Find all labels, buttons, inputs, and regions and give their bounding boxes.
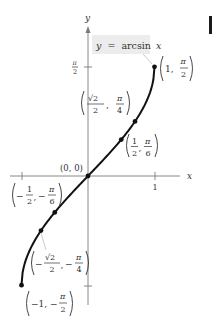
- point-label-neg1-neg-pi-half: −1, − π 2: [27, 291, 73, 316]
- eq-x: x: [156, 40, 162, 51]
- paren-right: [70, 291, 73, 316]
- point-label-neg-sqrt2-neg-pi-quarter: − √2 2 , − π 4: [32, 251, 89, 275]
- p6-den: 2: [61, 305, 66, 314]
- p5-num: π: [75, 253, 82, 262]
- data-point-marker: [19, 283, 24, 288]
- p2-xnum: √2: [88, 94, 98, 103]
- p3-xden: 2: [132, 149, 137, 158]
- point-label-half-pi-sixth: 1 2 , π 6: [127, 134, 158, 158]
- p2-xden: 2: [93, 106, 98, 115]
- p3-comma: ,: [139, 143, 142, 153]
- data-point-marker: [152, 64, 157, 69]
- point-label-neg-half-neg-pi-sixth: − 1 2 , − π 6: [13, 183, 62, 207]
- paren-left: [161, 56, 164, 81]
- eq-y: y: [95, 40, 102, 51]
- p2-den: 4: [117, 106, 122, 115]
- p6-x: −1,: [31, 299, 47, 309]
- page-edge-marker: [209, 16, 212, 34]
- p3-den: 6: [146, 149, 151, 158]
- tick-pi-num: π: [72, 59, 78, 67]
- paren-right: [155, 134, 158, 157]
- p1-x: 1,: [165, 64, 174, 74]
- data-point-marker: [119, 137, 124, 142]
- point-label-1-pi-half: 1, π 2: [161, 56, 193, 81]
- paren-left: [82, 91, 85, 115]
- eq-fn: arcsin: [121, 40, 151, 51]
- p5-comma: ,: [61, 260, 64, 270]
- y-tick-label-pi-half: π 2: [72, 59, 79, 76]
- p4-xden: 2: [27, 197, 32, 206]
- p5-minus-x: −: [35, 259, 43, 269]
- point-label-sqrt2-pi-quarter: √2 2 , π 4: [82, 91, 130, 115]
- p2-comma: ,: [106, 100, 109, 110]
- y-axis-arrow-icon: [86, 26, 91, 33]
- p4-num: π: [48, 185, 55, 194]
- x-tick-label-1: 1: [153, 183, 158, 192]
- p4-xnum: 1: [27, 185, 32, 194]
- p1-num: π: [180, 57, 187, 66]
- origin-label: (0, 0): [60, 163, 83, 173]
- p3-xnum: 1: [132, 137, 137, 146]
- eq-equals: =: [107, 40, 115, 51]
- p3-num: π: [144, 137, 151, 146]
- equation-leader-line: [143, 54, 152, 64]
- paren-left: [27, 291, 30, 316]
- data-point-marker: [133, 119, 138, 124]
- equation-label: y = arcsin x: [92, 35, 162, 64]
- y-axis-label: y: [84, 13, 91, 23]
- tick-pi-den: 2: [73, 68, 77, 76]
- paren-left: [13, 183, 16, 207]
- neg-sqrt2-leader-line: [41, 233, 46, 250]
- paren-right: [190, 56, 193, 81]
- p5-minus-y: −: [65, 259, 73, 269]
- arcsin-graph: x y 1 π 2 y = arcsin x 1, π 2 √2 2: [0, 0, 213, 324]
- data-point-marker: [39, 228, 44, 233]
- p5-xnum: √2: [45, 253, 55, 262]
- p4-comma: ,: [34, 192, 37, 202]
- p2-num: π: [116, 94, 123, 103]
- data-point-marker: [52, 210, 57, 215]
- p4-minus-y: −: [38, 191, 46, 201]
- p5-den: 4: [77, 265, 82, 274]
- paren-left: [127, 134, 130, 157]
- p5-xden: 2: [50, 265, 55, 274]
- paren-right: [127, 91, 130, 115]
- p6-num: π: [59, 292, 66, 301]
- data-point-marker: [86, 174, 91, 179]
- p6-minus-y: −: [50, 299, 58, 309]
- p1-den: 2: [181, 70, 186, 79]
- p4-den: 6: [50, 197, 55, 206]
- p4-minus-x: −: [16, 191, 24, 201]
- paren-left: [32, 251, 35, 275]
- x-axis-label: x: [187, 171, 192, 181]
